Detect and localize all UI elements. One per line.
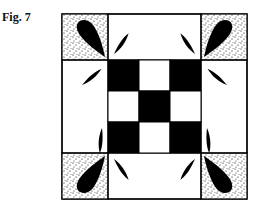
center-checkerboard	[108, 60, 201, 153]
quilt-block-diagram	[0, 0, 261, 209]
